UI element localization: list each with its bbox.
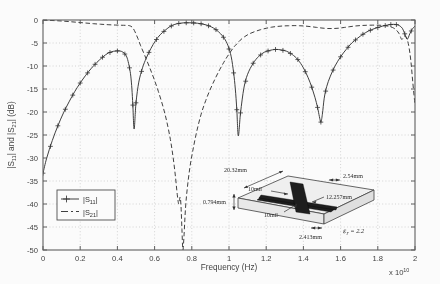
y-tick-label: -10 (27, 62, 38, 71)
x-tick-label: 0.8 (187, 254, 198, 263)
figure-background (0, 0, 440, 284)
dim-label-patch-length: 12.257mm (326, 194, 352, 200)
sparameter-figure: 00.20.40.60.811.21.41.61.820-5-10-15-20-… (0, 0, 440, 284)
x-tick-label: 0 (41, 254, 45, 263)
x-tick-label: 0.4 (112, 254, 123, 263)
y-tick-label: -35 (27, 177, 38, 186)
y-tick-label: -45 (27, 223, 38, 232)
x-tick-label: 2 (413, 254, 417, 263)
legend[interactable]: |S11| |S21| (57, 190, 115, 220)
x-exponent-power: 10 (403, 267, 409, 273)
dim-label-feed-width: 2.54mm (343, 173, 363, 179)
dim-label-gap-upper: 10mil (248, 186, 262, 192)
dim-label-thickness: 0.794mm (203, 199, 226, 205)
dim-label-gap-lower: 10mil (264, 212, 278, 218)
y-tick-label: -15 (27, 85, 38, 94)
y-tick-label: -5 (31, 39, 38, 48)
y-tick-label: -50 (27, 246, 38, 255)
x-tick-label: 1.8 (373, 254, 384, 263)
y-tick-label: -20 (27, 108, 38, 117)
x-axis-label: Frequency (Hz) (201, 263, 258, 272)
x-tick-label: 1.6 (335, 254, 346, 263)
x-tick-label: 1.2 (261, 254, 272, 263)
chart-svg: 00.20.40.60.811.21.41.61.820-5-10-15-20-… (0, 0, 440, 284)
x-tick-label: 1 (227, 254, 231, 263)
y-tick-label: -40 (27, 200, 38, 209)
x-tick-label: 0.2 (75, 254, 86, 263)
y-tick-label: 0 (34, 16, 38, 25)
y-tick-label: -30 (27, 154, 38, 163)
x-tick-label: 0.6 (149, 254, 160, 263)
x-exponent-base: x 10 (389, 268, 403, 277)
dim-label-substrate-width: 20.32mm (224, 167, 247, 173)
x-tick-label: 1.4 (298, 254, 309, 263)
dim-label-feed-offset: 2.413mm (299, 234, 322, 240)
y-tick-label: -25 (27, 131, 38, 140)
